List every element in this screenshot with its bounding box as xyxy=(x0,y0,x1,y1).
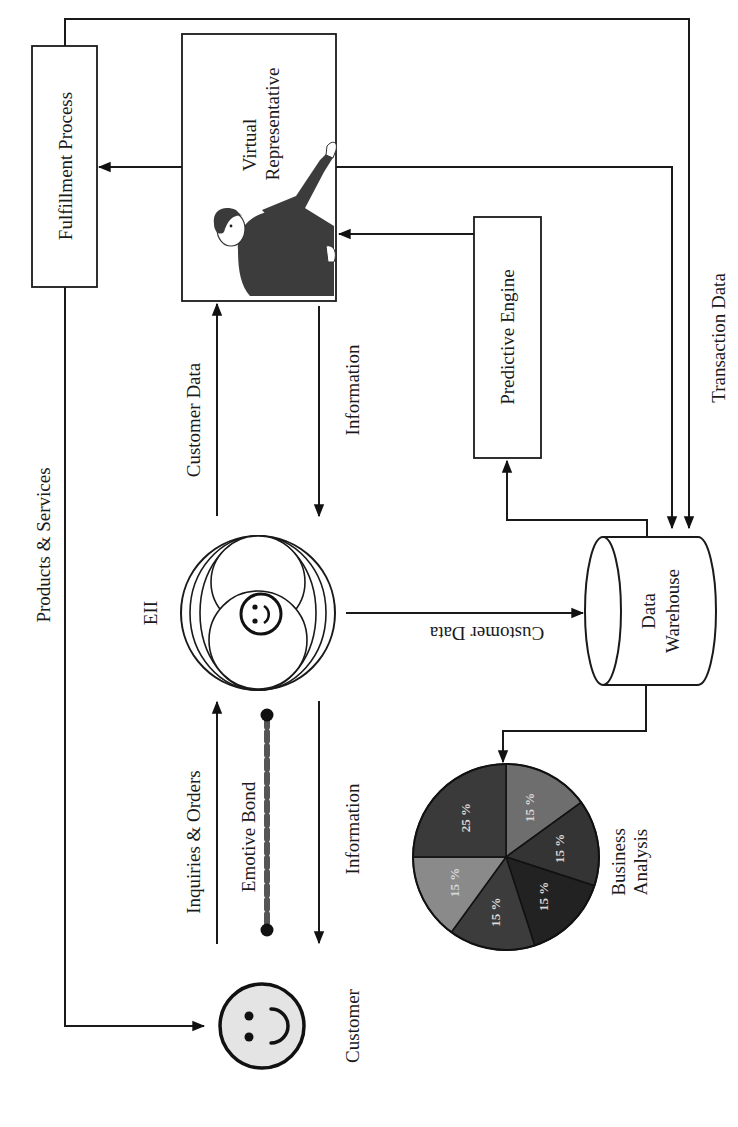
customer-data-to-vr-label: Customer Data xyxy=(183,362,204,477)
information-from-vr-label: Information xyxy=(342,344,363,435)
emotive-bond-label: Emotive Bond xyxy=(238,781,259,892)
customer-data-to-warehouse-label: Customer Data xyxy=(429,623,544,644)
predictive-engine-node[interactable]: Predictive Engine xyxy=(474,217,541,458)
virtual-representative-label-line1: Virtual xyxy=(239,119,260,172)
transaction-data-connector xyxy=(65,19,689,528)
data-warehouse-node[interactable]: Data Warehouse xyxy=(585,537,716,685)
eii-smiley-icon xyxy=(241,594,281,634)
pie-slice-label: 15 % xyxy=(522,793,537,822)
eii-node[interactable]: EII xyxy=(140,536,335,690)
information-to-customer-label: Information xyxy=(342,783,363,874)
virtual-representative-node[interactable]: Virtual Representative xyxy=(182,34,336,301)
virtual-representative-label-line2: Representative xyxy=(262,68,283,181)
business-analysis-label-line1: Business xyxy=(608,828,629,896)
pie-slice-label: 15 % xyxy=(552,834,567,863)
predictive-engine-label: Predictive Engine xyxy=(497,269,518,405)
business-analysis-label-line2: Analysis xyxy=(630,829,651,896)
eii-label: EII xyxy=(140,601,161,625)
customer-node[interactable]: Customer xyxy=(220,984,363,1068)
pie-slice-label: 15 % xyxy=(536,882,551,911)
products-services-label: Products & Services xyxy=(33,467,54,622)
data-warehouse-label-line1: Data xyxy=(638,593,659,629)
emotive-bond-link xyxy=(261,709,274,937)
fulfillment-process-label: Fulfillment Process xyxy=(55,92,76,240)
diagram-canvas: Fulfillment Process Virtual Representati… xyxy=(0,0,738,1127)
customer-label: Customer xyxy=(342,988,363,1063)
transaction-data-label: Transaction Data xyxy=(708,273,729,403)
warehouse-to-analysis-arrow xyxy=(503,685,646,762)
pie-slice-label: 15 % xyxy=(488,897,503,926)
fulfillment-process-node[interactable]: Fulfillment Process xyxy=(32,46,97,287)
inquiries-orders-label: Inquiries & Orders xyxy=(183,770,204,914)
business-analysis-pie-chart: 15 %15 %15 %15 %15 %25 % xyxy=(413,764,599,950)
warehouse-to-predictive-arrow xyxy=(507,461,647,537)
pie-slice-label: 25 % xyxy=(458,803,473,832)
data-warehouse-label-line2: Warehouse xyxy=(662,569,683,653)
pie-slice-label: 15 % xyxy=(447,868,462,897)
